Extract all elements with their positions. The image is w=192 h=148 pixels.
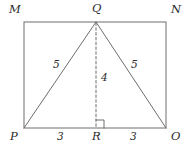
measure-label-right-leg: 5 xyxy=(131,59,138,70)
vertex-label-m: M xyxy=(9,4,21,16)
measure-label-base-left: 3 xyxy=(57,131,64,142)
right-angle-marker xyxy=(96,120,104,128)
measure-label-left-leg: 5 xyxy=(53,59,60,70)
geometry-figure: M Q N P R O 5 5 4 3 3 xyxy=(0,0,192,148)
figure-canvas xyxy=(0,0,192,148)
measure-label-altitude: 4 xyxy=(101,72,108,83)
rectangle-mnop xyxy=(24,22,166,128)
vertex-label-p: P xyxy=(10,131,18,143)
vertex-label-q: Q xyxy=(92,3,101,15)
vertex-label-o: O xyxy=(171,131,180,143)
vertex-label-r: R xyxy=(92,131,101,143)
segment-pq xyxy=(24,22,96,128)
measure-label-base-right: 3 xyxy=(130,131,137,142)
vertex-label-n: N xyxy=(171,4,181,16)
